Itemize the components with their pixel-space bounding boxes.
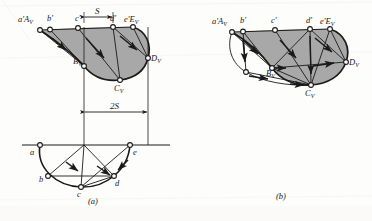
label-aAv-a: a'AV xyxy=(18,14,34,25)
label-Cv-b: CV xyxy=(305,88,316,99)
figure-b-caption: (b) xyxy=(276,191,286,201)
technical-drawing: a'AV b' c' d' e'EV BV CV DV a b c d e S … xyxy=(0,0,372,221)
label-d-a: d' xyxy=(110,13,116,23)
label-eEv-b: e'EV xyxy=(320,16,336,27)
label-Cv-a: CV xyxy=(114,83,125,94)
figure-canvas: a'AV b' c' d' e'EV BV CV DV a b c d e S … xyxy=(0,0,372,221)
label-c-b: c' xyxy=(271,15,277,25)
label-d-b: d' xyxy=(306,15,312,25)
label-eEv-a: e'EV xyxy=(124,14,140,25)
label-Dv-b: DV xyxy=(348,57,360,68)
label-d-bottom-a: d xyxy=(115,178,120,188)
dimension-label-2S: 2S xyxy=(110,101,120,111)
figure-a: a'AV b' c' d' e'EV BV CV DV a b c d e S … xyxy=(18,6,170,206)
label-c-bottom-a: c xyxy=(77,189,81,199)
label-Dv-a: DV xyxy=(150,53,162,64)
figure-a-caption: (a) xyxy=(88,196,98,206)
label-b-a: b' xyxy=(47,13,53,23)
label-e-bottom-a: e xyxy=(133,147,137,157)
dimension-label-S: S xyxy=(95,6,100,16)
label-aAv-b: a'AV xyxy=(212,16,228,27)
figure-b: a'AV b' c' d' e'EV BV CV DV (b) xyxy=(212,15,360,201)
label-b-bottom-a: b xyxy=(39,174,43,184)
label-c-a: c' xyxy=(75,13,81,23)
shaded-region-a xyxy=(40,27,149,80)
label-a-bottom-a: a xyxy=(30,147,34,157)
label-b-b: b' xyxy=(240,15,246,25)
